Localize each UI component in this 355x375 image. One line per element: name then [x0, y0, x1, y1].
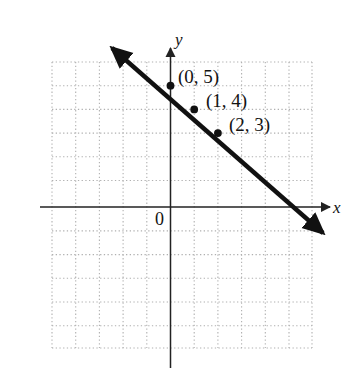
x-axis-label: x	[332, 198, 341, 217]
y-axis-label: y	[173, 30, 183, 49]
paper-background	[0, 0, 355, 375]
data-point-0-5	[167, 82, 175, 90]
data-point-2-3	[214, 129, 222, 137]
figure-page: 31. Plot (0, 5), (1, 4), ... = ( , )	[0, 0, 355, 375]
point-label-2-3: (2, 3)	[229, 114, 270, 136]
point-label-1-4: (1, 4)	[206, 90, 247, 112]
coordinate-plane-svg: (0, 5) (1, 4) (2, 3) 0 x y	[0, 0, 355, 375]
origin-label: 0	[155, 209, 164, 229]
point-label-0-5: (0, 5)	[178, 66, 219, 88]
graph-container: (0, 5) (1, 4) (2, 3) 0 x y	[0, 0, 355, 375]
data-point-1-4	[190, 106, 198, 114]
